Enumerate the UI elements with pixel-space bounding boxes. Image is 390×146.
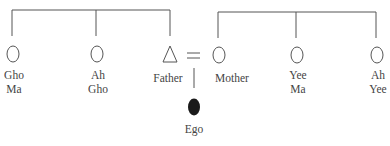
ah-gho-label: Ah Gho: [68, 68, 128, 96]
ah-gho-label-line-1: Ah: [68, 68, 128, 82]
marriage-equals-sign: [187, 53, 200, 58]
left-sibling-bracket: [12, 10, 170, 36]
yee-ma-female-symbol: [291, 47, 303, 63]
ah-yee-label-line-1: Ah: [348, 68, 390, 82]
yee-ma-label-line-2: Ma: [268, 82, 328, 96]
ah-yee-label: Ah Yee: [348, 68, 390, 96]
mother-label-line-1: Mother: [202, 71, 262, 85]
gho-ma-label: Gho Ma: [0, 68, 44, 96]
ego-label: Ego: [164, 122, 224, 136]
yee-ma-label-line-1: Yee: [268, 68, 328, 82]
gho-ma-label-line-1: Gho: [0, 68, 44, 82]
mother-female-symbol: [213, 47, 225, 63]
father-male-symbol: [163, 46, 177, 62]
father-label-line-1: Father: [138, 71, 198, 85]
yee-ma-label: Yee Ma: [268, 68, 328, 96]
gho-ma-label-line-2: Ma: [0, 82, 44, 96]
father-label: Father: [138, 71, 198, 85]
ego-filled-symbol: [188, 99, 200, 116]
mother-label: Mother: [202, 71, 262, 85]
gho-ma-female-symbol: [7, 46, 19, 62]
ah-gho-label-line-2: Gho: [68, 82, 128, 96]
ego-label-line-1: Ego: [164, 122, 224, 136]
right-sibling-bracket: [218, 12, 376, 38]
ah-yee-female-symbol: [371, 47, 383, 63]
ah-yee-label-line-2: Yee: [348, 82, 390, 96]
ah-gho-female-symbol: [91, 46, 103, 62]
